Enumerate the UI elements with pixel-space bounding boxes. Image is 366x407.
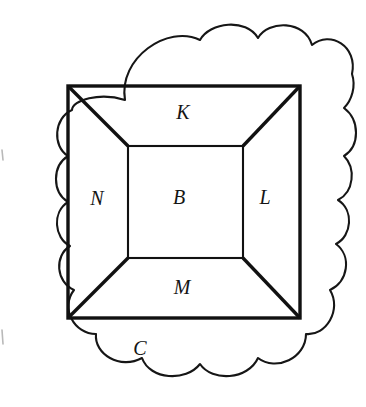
label-region-c: C: [133, 337, 147, 359]
figure-container: K N B L M C: [0, 0, 366, 407]
label-region-k: K: [175, 101, 191, 123]
edge-artifact-mark-lower: [2, 330, 3, 344]
label-region-m: M: [173, 276, 192, 298]
label-region-l: L: [258, 186, 270, 208]
label-region-n: N: [89, 187, 105, 209]
cloud-square-diagram: K N B L M C: [0, 0, 366, 407]
edge-artifact-mark-upper: [2, 150, 3, 160]
label-region-b: B: [173, 186, 185, 208]
